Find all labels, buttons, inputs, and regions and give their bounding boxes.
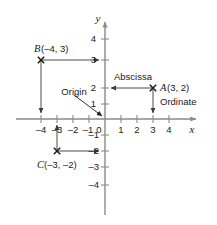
y-tick-label-neg2: –2 [88, 145, 99, 156]
abscissa-label: Abscissa [114, 71, 153, 82]
y-axis-label: y [95, 12, 101, 24]
coordinate-plane-svg: –4 –3 –2 –1 0 1 2 3 4 4 3 2 1 –1 –2 –3 –… [0, 0, 217, 225]
point-label-b: B (–4, 3) [34, 43, 68, 54]
x-tick-label-neg4: –4 [36, 124, 47, 135]
x-tick-label-neg2: –2 [68, 124, 79, 135]
origin-label: Origin [61, 86, 86, 97]
y-tick-label-4: 4 [91, 33, 96, 44]
y-tick-label-1: 1 [91, 98, 96, 109]
point-a-coords: (3, 2) [167, 82, 189, 93]
point-b-letter: B [34, 43, 41, 54]
x-tick-label-1: 1 [118, 124, 123, 135]
guides-point-a [111, 88, 153, 113]
x-tick-label-neg3: –3 [52, 124, 63, 135]
y-tick-label-2: 2 [91, 82, 96, 93]
coordinate-plane-figure: –4 –3 –2 –1 0 1 2 3 4 4 3 2 1 –1 –2 –3 –… [0, 0, 217, 225]
y-tick-label-neg3: –3 [88, 161, 99, 172]
point-c-coords: (–3, –2) [44, 159, 77, 170]
origin-leader-line [74, 95, 102, 116]
ordinate-label: Ordinate [160, 96, 196, 107]
point-b-coords: (–4, 3) [41, 43, 68, 54]
point-label-a: A (3, 2) [159, 82, 189, 93]
y-tick-label-3: 3 [91, 54, 96, 65]
point-a-letter: A [159, 82, 167, 93]
x-tick-label-3: 3 [150, 124, 155, 135]
y-tick-label-neg1: –1 [88, 129, 99, 140]
x-tick-label-2: 2 [134, 124, 139, 135]
x-tick-label-4: 4 [166, 124, 171, 135]
point-label-c: C (–3, –2) [37, 159, 77, 170]
x-axis-label: x [189, 123, 195, 135]
y-tick-label-neg4: –4 [88, 179, 99, 190]
